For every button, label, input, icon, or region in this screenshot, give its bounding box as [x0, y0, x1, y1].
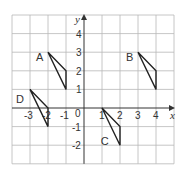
- x-tick-label: -3: [24, 110, 33, 121]
- shape-label: C: [101, 135, 109, 147]
- x-tick-label: 3: [135, 110, 141, 121]
- x-tick-label: 2: [117, 110, 123, 121]
- y-tick-label: 1: [76, 84, 82, 95]
- origin-label: 0: [75, 108, 81, 119]
- x-tick-label: -1: [60, 110, 69, 121]
- y-tick-label: 4: [76, 29, 82, 40]
- shape-label: B: [126, 51, 133, 63]
- x-tick-label: 4: [153, 110, 159, 121]
- tick-labels: -3-2-112344321-1-20: [24, 29, 159, 152]
- grid-lines: [12, 15, 174, 164]
- axes: xy: [12, 13, 175, 164]
- y-tick-label: -1: [72, 122, 81, 133]
- y-tick-label: -2: [72, 140, 81, 151]
- y-tick-label: 3: [76, 47, 82, 58]
- shape-label: A: [36, 51, 44, 63]
- y-axis-label: y: [74, 13, 80, 25]
- coordinate-grid: xy -3-2-112344321-1-20 ABCD: [0, 0, 183, 172]
- triangle-b: B: [126, 51, 156, 90]
- x-axis-label: x: [169, 109, 175, 121]
- y-tick-label: 2: [76, 66, 82, 77]
- shapes: ABCD: [16, 51, 156, 147]
- triangle-a: A: [36, 51, 66, 90]
- shape-label: D: [16, 93, 24, 105]
